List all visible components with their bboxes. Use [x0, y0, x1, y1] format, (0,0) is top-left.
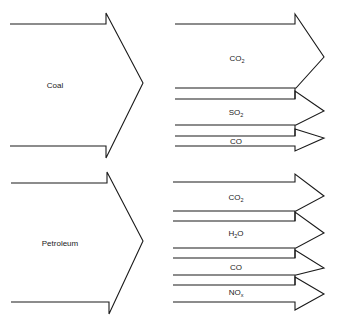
petroleum-label: Petroleum [42, 239, 78, 248]
petroleum-co-label: CO [230, 263, 242, 272]
coal-so2-label: SO2 [229, 108, 244, 118]
coal-co2-label: CO2 [229, 54, 244, 64]
coal-so2-arrow [175, 91, 324, 125]
petroleum-nox-label: NOx [229, 288, 244, 298]
coal-co-label: CO [230, 137, 242, 146]
petroleum-co-arrow [173, 250, 324, 275]
coal-label: Coal [47, 81, 63, 90]
coal-co2-arrow [175, 14, 324, 88]
coal-co-arrow [175, 129, 324, 151]
petroleum-h2o-arrow [173, 212, 324, 248]
petroleum-h2o-label: H2O [228, 229, 243, 239]
petroleum-co2-label: CO2 [228, 193, 243, 203]
flow-diagram [0, 0, 337, 323]
petroleum-nox-arrow [173, 277, 324, 310]
coal-input-arrow [10, 13, 143, 158]
petroleum-co2-arrow [173, 174, 324, 211]
